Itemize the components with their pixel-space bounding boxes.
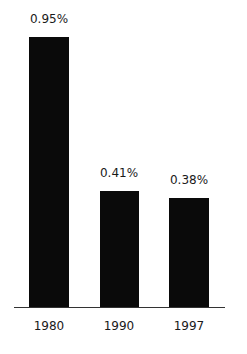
bar-1990 (100, 191, 139, 307)
bar-chart: 0.95% 0.41% 0.38% 1980 1990 1997 (0, 0, 247, 354)
bar-1980 (29, 37, 69, 307)
x-tick-1980: 1980 (19, 319, 79, 333)
value-label-1990: 0.41% (89, 166, 149, 180)
x-tick-1997: 1997 (159, 319, 219, 333)
bar-1997 (169, 198, 209, 307)
x-tick-1990: 1990 (89, 319, 149, 333)
value-label-1980: 0.95% (19, 12, 79, 26)
x-axis-line (14, 307, 225, 308)
value-label-1997: 0.38% (159, 173, 219, 187)
